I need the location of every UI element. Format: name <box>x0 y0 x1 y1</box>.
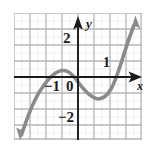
origin-label-zero: 0 <box>66 79 74 94</box>
y-axis-label: y <box>86 17 92 30</box>
graph-figure: −1 0 1 2 −2 y x <box>0 0 152 150</box>
plot-area <box>14 13 142 140</box>
x-tick-label-one: 1 <box>103 56 110 70</box>
y-tick-label-two: 2 <box>63 31 71 46</box>
x-axis-label: x <box>137 80 143 92</box>
x-tick-label-neg-one: −1 <box>44 79 60 94</box>
y-tick-label-neg-two: −2 <box>58 110 74 125</box>
plot-canvas <box>14 13 142 140</box>
